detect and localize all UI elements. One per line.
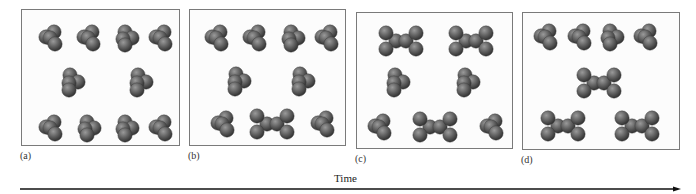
time-arrow-icon xyxy=(0,0,696,194)
